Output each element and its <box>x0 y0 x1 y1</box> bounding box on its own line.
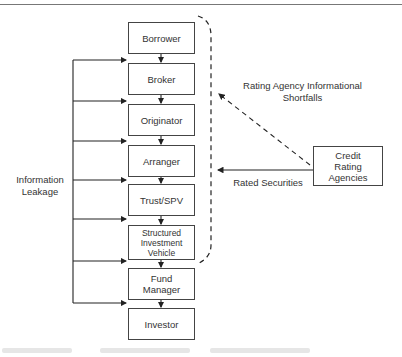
node-investor: Investor <box>128 308 195 340</box>
label-information-leakage: Information Leakage <box>10 174 70 197</box>
cropped-caption-fragment <box>2 348 72 353</box>
node-broker: Broker <box>128 63 195 95</box>
node-borrower: Borrower <box>128 22 195 54</box>
node-trust-spv: Trust/SPV <box>128 184 195 216</box>
node-siv: Structured Investment Vehicle <box>128 225 195 260</box>
node-fund-manager: Fund Manager <box>128 268 195 300</box>
node-originator: Originator <box>128 104 195 136</box>
node-arranger: Arranger <box>128 145 195 177</box>
label-rating-shortfalls: Rating Agency Informational Shortfalls <box>235 80 370 103</box>
cropped-caption-fragment <box>210 348 310 353</box>
label-rated-securities: Rated Securities <box>228 177 308 189</box>
cropped-caption-fragment <box>100 348 190 353</box>
node-credit-rating-agencies: Credit Rating Agencies <box>313 146 383 186</box>
